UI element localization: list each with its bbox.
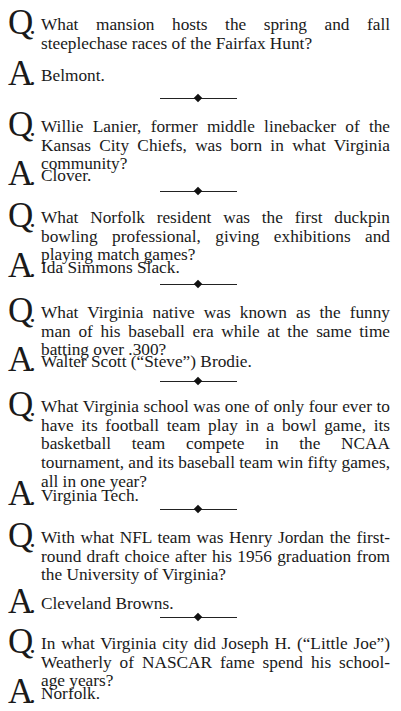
answer-text: Walter Scott (“Steve”) Brodie. xyxy=(41,345,252,372)
q-letter: Q xyxy=(8,291,32,330)
diamond-divider-icon xyxy=(160,377,237,386)
a-marker: A. xyxy=(8,345,41,380)
q-marker: Q. xyxy=(8,110,41,145)
answer-text: Virginia Tech. xyxy=(41,479,139,506)
q-marker: Q. xyxy=(8,201,41,236)
diamond-divider-icon xyxy=(160,280,237,289)
a-marker: A. xyxy=(8,159,41,194)
q-letter: Q xyxy=(8,516,32,555)
answer-text: Belmont. xyxy=(41,59,105,86)
question-text: What Virginia school was one of only fou… xyxy=(41,390,390,492)
q-marker: Q. xyxy=(8,8,41,43)
a-letter: A xyxy=(8,474,32,513)
diamond-divider-icon xyxy=(160,613,237,622)
diamond-divider-icon xyxy=(160,187,237,196)
a-letter: A xyxy=(8,246,32,285)
a-letter: A xyxy=(8,54,32,93)
qa-item: Q. With what NFL team was Henry Jordan t… xyxy=(8,521,390,585)
a-marker: A. xyxy=(8,587,41,622)
a-letter: A xyxy=(8,340,32,379)
question-text: With what NFL team was Henry Jordan the … xyxy=(41,521,390,585)
q-letter: Q xyxy=(8,3,32,42)
answer-text: Clover. xyxy=(41,159,91,186)
q-marker: Q. xyxy=(8,296,41,331)
q-marker: Q. xyxy=(8,521,41,556)
a-marker: A. xyxy=(8,251,41,286)
a-marker: A. xyxy=(8,677,41,711)
question-row: Q. What mansion hosts the spring and fal… xyxy=(8,8,390,53)
qa-item: Q. What mansion hosts the spring and fal… xyxy=(8,8,390,53)
a-marker: A. xyxy=(8,59,41,94)
question-row: Q. With what NFL team was Henry Jordan t… xyxy=(8,521,390,585)
diamond-divider-icon xyxy=(160,94,237,103)
question-text: What mansion hosts the spring and fall s… xyxy=(41,8,390,53)
answer-text: Ida Simmons Slack. xyxy=(41,251,180,278)
answer-text: Cleveland Browns. xyxy=(41,587,173,614)
a-marker: A. xyxy=(8,479,41,514)
trivia-page: Q. What mansion hosts the spring and fal… xyxy=(0,0,401,711)
q-marker: Q. xyxy=(8,390,41,425)
question-row: Q. What Virginia school was one of only … xyxy=(8,390,390,492)
q-letter: Q xyxy=(8,196,32,235)
answer-row: A. Belmont. xyxy=(8,59,390,94)
q-letter: Q xyxy=(8,622,32,661)
answer-row: A. Walter Scott (“Steve”) Brodie. xyxy=(8,345,390,380)
a-letter: A xyxy=(8,672,32,711)
q-marker: Q. xyxy=(8,627,41,662)
a-letter: A xyxy=(8,582,32,621)
answer-text: Norfolk. xyxy=(41,677,100,704)
q-letter: Q xyxy=(8,385,32,424)
answer-row: A. Norfolk. xyxy=(8,677,390,711)
qa-item: Q. What Virginia school was one of only … xyxy=(8,390,390,492)
q-letter: Q xyxy=(8,105,32,144)
a-letter: A xyxy=(8,154,32,193)
diamond-divider-icon xyxy=(160,505,237,514)
